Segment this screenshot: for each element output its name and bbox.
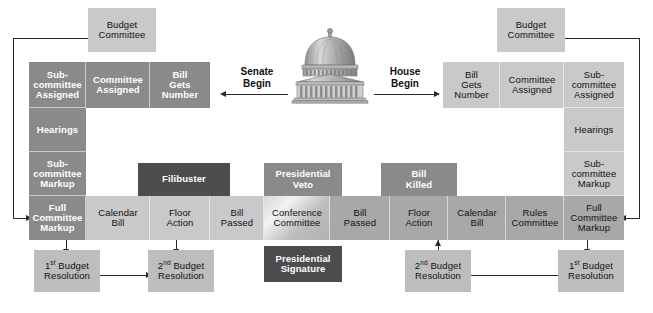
house-second-budget-resolution-box[interactable]: 2nd Budget Resolution: [405, 250, 471, 292]
house-second-budget-resolution-label: 2nd Budget Resolution: [415, 261, 461, 282]
senate-budget-committee-box[interactable]: Budget Committee: [88, 8, 156, 52]
senate-committee-assigned-box[interactable]: Committee Assigned: [86, 62, 150, 108]
senate-begin-label: Senate Begin: [226, 66, 288, 89]
house-budget-connector-in: [624, 218, 640, 219]
house-committee-assigned-box[interactable]: Committee Assigned: [500, 62, 564, 108]
senate-subcommittee-assigned-box[interactable]: Sub- committee Assigned: [29, 62, 86, 108]
senate-bill-gets-number-box[interactable]: Bill Gets Number: [150, 62, 210, 108]
senate-floor-action-box[interactable]: Floor Action: [150, 196, 210, 240]
bill-process-diagram: Budget Committee Sub- committee Assigned…: [0, 0, 653, 313]
senate-begin-arrow-line: [226, 94, 288, 95]
house-begin-label: House Begin: [374, 66, 436, 89]
senate-subcommittee-markup-box[interactable]: Sub- committee Markup: [29, 152, 86, 196]
house-bill-gets-number-box[interactable]: Bill Gets Number: [443, 62, 500, 108]
senate-hearings-box[interactable]: Hearings: [29, 108, 86, 152]
senate-begin-arrowhead: [220, 91, 226, 97]
senate-first-budget-resolution-box[interactable]: 1st Budget Resolution: [34, 250, 100, 292]
house-budget-connector-h: [565, 38, 640, 39]
senate-second-budget-resolution-box[interactable]: 2nd Budget Resolution: [148, 250, 214, 292]
house-begin-arrowhead: [434, 91, 440, 97]
house-2nd-to-floor-arrowhead: [435, 240, 441, 246]
house-first-budget-resolution-label: 1st Budget Resolution: [568, 261, 614, 282]
senate-second-budget-resolution-label: 2nd Budget Resolution: [158, 261, 204, 282]
senate-full-committee-markup-box[interactable]: Full Committee Markup: [29, 196, 86, 240]
senate-filibuster-box[interactable]: Filibuster: [138, 163, 230, 196]
house-bill-killed-box[interactable]: Bill Killed: [381, 163, 457, 196]
senate-calendar-bill-box[interactable]: Calendar Bill: [86, 196, 150, 240]
senate-budget-connector-v: [13, 38, 14, 218]
senate-budget-connector-h: [13, 38, 88, 39]
senate-1st-to-2nd-line: [100, 275, 148, 276]
house-floor-action-box[interactable]: Floor Action: [390, 196, 448, 240]
house-full-committee-markup-box[interactable]: Full Committee Markup: [564, 196, 624, 240]
house-bill-passed-box[interactable]: Bill Passed: [330, 196, 390, 240]
house-subcommittee-markup-box[interactable]: Sub- committee Markup: [564, 152, 624, 196]
presidential-veto-box[interactable]: Presidential Veto: [264, 163, 342, 196]
senate-first-budget-resolution-label: 1st Budget Resolution: [44, 261, 90, 282]
house-budget-committee-box[interactable]: Budget Committee: [497, 8, 565, 52]
house-subcommittee-assigned-box[interactable]: Sub- committee Assigned: [564, 62, 624, 108]
house-calendar-bill-box[interactable]: Calendar Bill: [448, 196, 506, 240]
house-1st-to-2nd-line: [470, 275, 558, 276]
house-budget-connector-v: [639, 38, 640, 218]
conference-committee-box[interactable]: Conference Committee: [264, 196, 330, 240]
house-begin-arrow-line: [374, 94, 436, 95]
senate-bill-passed-box[interactable]: Bill Passed: [210, 196, 264, 240]
house-hearings-box[interactable]: Hearings: [564, 108, 624, 152]
presidential-signature-box[interactable]: Presidential Signature: [264, 246, 342, 282]
capitol-building-icon: [289, 22, 371, 104]
house-rules-committee-box[interactable]: Rules Committee: [506, 196, 564, 240]
house-first-budget-resolution-box[interactable]: 1st Budget Resolution: [558, 250, 624, 292]
